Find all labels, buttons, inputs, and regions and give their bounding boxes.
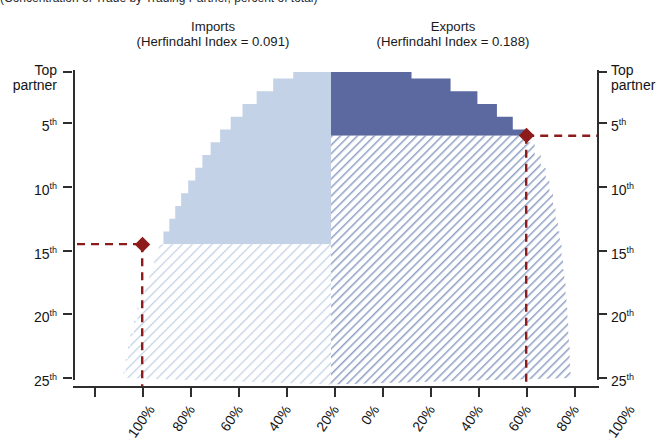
y-tick-label-left-10: 10th	[0, 179, 57, 197]
y-tick-right-15	[598, 250, 607, 252]
x-tick-10	[574, 388, 576, 397]
x-tick-1	[142, 388, 144, 397]
y-label-top-line2-right: partner	[611, 77, 655, 93]
y-tick-label-right-1: Toppartner	[611, 63, 671, 92]
y-tick-label-left-5: 5th	[0, 115, 57, 133]
x-tick-4	[286, 388, 288, 397]
y-tick-right-5	[598, 122, 607, 124]
y-tick-left-15	[63, 250, 72, 252]
y-axis-right-spine	[597, 70, 599, 380]
y-tick-label-left-15: 15th	[0, 243, 57, 261]
y-tick-label-left-1: Toppartner	[0, 63, 57, 92]
x-axis-spine	[73, 386, 599, 388]
x-tick-2	[190, 388, 192, 397]
x-tick-5	[334, 388, 336, 397]
y-axis-left-spine	[73, 70, 75, 380]
x-tick-6	[382, 388, 384, 397]
y-tick-label-left-25: 25th	[0, 370, 57, 388]
y-tick-left-5	[63, 122, 72, 124]
x-tick-9	[526, 388, 528, 397]
y-label-top-line2: partner	[13, 77, 57, 93]
y-tick-left-1	[63, 71, 72, 73]
y-tick-label-right-25: 25th	[611, 370, 671, 388]
x-tick-8	[478, 388, 480, 397]
y-tick-label-right-20: 20th	[611, 306, 671, 324]
x-tick-7	[430, 388, 432, 397]
y-tick-right-10	[598, 186, 607, 188]
y-tick-right-1	[598, 71, 607, 73]
y-tick-left-25	[63, 377, 72, 379]
x-tick-3	[238, 388, 240, 397]
y-tick-left-20	[63, 313, 72, 315]
y-tick-left-10	[63, 186, 72, 188]
y-tick-label-right-5: 5th	[611, 115, 671, 133]
x-tick-0	[94, 388, 96, 397]
y-tick-label-right-10: 10th	[611, 179, 671, 197]
y-tick-right-20	[598, 313, 607, 315]
y-tick-label-right-15: 15th	[611, 243, 671, 261]
y-tick-label-left-20: 20th	[0, 306, 57, 324]
y-tick-right-25	[598, 377, 607, 379]
